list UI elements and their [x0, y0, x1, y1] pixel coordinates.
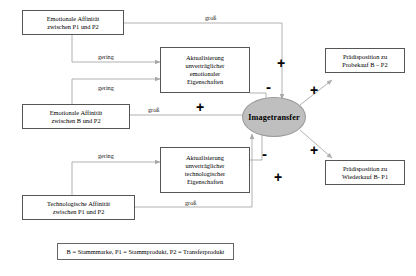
node-line: Probekauf B – P2 [342, 61, 387, 69]
node-emotional-affinity-b-p2[interactable]: Emotionale Affinität zwischen B und P2 [22, 104, 130, 129]
edge-label-middle-gering: gering [98, 84, 114, 91]
node-line: Wiederkauf B- P1 [342, 173, 388, 181]
sign-plus-trial: + [310, 83, 318, 97]
node-predisposition-trial[interactable]: Prädisposition zu Probekauf B – P2 [325, 48, 405, 73]
node-line: Prädisposition zu [342, 165, 388, 173]
edge-label-middle-gross: groß [148, 106, 159, 113]
node-line: Prädisposition zu [342, 53, 387, 61]
node-line: Technologische Affinität [47, 200, 110, 208]
node-line: technologischer [185, 170, 225, 178]
legend-text: B = Stammmarke, P1 = Stammprodukt, P2 = … [67, 248, 225, 255]
edge-label-lower-gering: gering [98, 152, 114, 159]
node-line: Emotionale Affinität [47, 15, 100, 23]
node-update-technological[interactable]: Aktualisierung unverträglicher technolog… [160, 147, 250, 193]
node-update-emotional[interactable]: Aktualisierung unverträglicher emotional… [160, 47, 250, 93]
node-line: unverträglicher [185, 162, 225, 170]
node-line: zwischen B und P2 [50, 117, 103, 125]
diagram-canvas: Emotionale Affinität zwischen P1 und P2 … [0, 0, 416, 276]
node-imagetransfer[interactable]: Imagetransfer [242, 97, 306, 137]
sign-minus-technological: - [262, 146, 267, 161]
imagetransfer-label: Imagetransfer [248, 113, 299, 122]
node-predisposition-repurchase[interactable]: Prädisposition zu Wiederkauf B- P1 [325, 160, 405, 185]
sign-plus-top: + [277, 56, 285, 70]
node-line: zwischen P1 und P2 [47, 208, 110, 216]
edge-label-top-gross: groß [205, 14, 216, 21]
node-line: unverträglicher [185, 62, 224, 70]
edge-label-bottom-gross: groß [185, 199, 196, 206]
sign-minus-emotional: - [266, 79, 271, 94]
legend-box: B = Stammmarke, P1 = Stammprodukt, P2 = … [57, 243, 234, 260]
connector-layer [0, 0, 416, 276]
node-line: Emotionale Affinität [50, 109, 103, 117]
sign-plus-repurchase: + [310, 143, 318, 157]
sign-plus-middle: + [196, 100, 204, 114]
node-line: emotionaler [185, 70, 224, 78]
edge-label-upper-gering: gering [98, 53, 114, 60]
node-line: zwischen P1 und P2 [47, 23, 100, 31]
node-line: Aktualisierung [185, 154, 225, 162]
node-line: Eigenschaften [185, 178, 225, 186]
node-line: Aktualisierung [185, 54, 224, 62]
node-line: Eigenschaften [185, 78, 224, 86]
node-emotional-affinity-p1-p2[interactable]: Emotionale Affinität zwischen P1 und P2 [22, 10, 124, 35]
sign-plus-bottom: + [274, 170, 282, 184]
node-technological-affinity-p1-p2[interactable]: Technologische Affinität zwischen P1 und… [22, 195, 135, 220]
